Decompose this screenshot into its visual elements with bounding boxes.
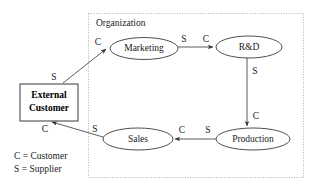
edge-label-ec-to-marketing-source: S (51, 72, 56, 82)
node-production-label: Production (232, 134, 274, 144)
edge-label-production-to-sales-target: C (179, 125, 185, 135)
edge-label-sales-to-ec-target: C (42, 124, 48, 134)
legend-line-customer: C = Customer (14, 151, 68, 161)
edge-label-rnd-to-production-source: S (252, 66, 257, 76)
legend-line-supplier: S = Supplier (14, 164, 62, 174)
node-external-customer-label-line1: External (31, 90, 67, 100)
node-marketing-label: Marketing (124, 43, 164, 53)
edge-external-customer-to-marketing (63, 49, 106, 83)
organization-container (89, 14, 304, 178)
node-sales-label: Sales (128, 134, 148, 144)
node-external-customer-label-line2: Customer (29, 103, 70, 113)
edge-label-marketing-to-rnd-source: S (181, 34, 186, 44)
edge-label-rnd-to-production-target: C (253, 111, 259, 121)
organization-title: Organization (96, 18, 146, 28)
edge-label-ec-to-marketing-target: C (95, 37, 101, 47)
edge-label-production-to-sales-source: S (205, 125, 210, 135)
edge-label-marketing-to-rnd-target: C (203, 34, 209, 44)
node-rnd-label: R&D (239, 42, 260, 52)
edge-label-sales-to-ec-source: S (92, 124, 97, 134)
diagram-canvas: Organization S C S C S C S C S C Externa… (0, 0, 317, 190)
